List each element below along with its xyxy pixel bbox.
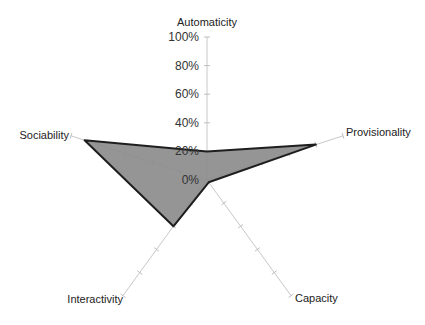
axis-tick — [137, 271, 142, 275]
axis-label-capacity: Capacity — [295, 292, 338, 304]
axis-tick — [154, 248, 159, 252]
axis-tick — [238, 225, 243, 229]
axis-tick — [289, 294, 294, 298]
axis-line-capacity — [207, 180, 291, 296]
axis-label-interactivity: Interactivity — [67, 293, 123, 305]
tick-label: 0% — [182, 173, 200, 187]
axis-tick — [255, 248, 260, 252]
axis-label-automaticity: Automaticity — [177, 16, 237, 28]
radar-chart: 0%20%40%60%80%100% AutomaticityProvision… — [0, 0, 425, 325]
tick-label: 20% — [175, 144, 199, 158]
tick-label: 60% — [175, 87, 199, 101]
axis-tick — [221, 201, 226, 205]
axis-tick — [272, 271, 277, 275]
tick-label: 80% — [175, 59, 199, 73]
series-polygon — [85, 140, 316, 226]
tick-label: 100% — [168, 30, 199, 44]
axis-label-provisionality: Provisionality — [346, 126, 411, 138]
axis-label-sociability: Sociability — [19, 129, 69, 141]
tick-label: 40% — [175, 116, 199, 130]
